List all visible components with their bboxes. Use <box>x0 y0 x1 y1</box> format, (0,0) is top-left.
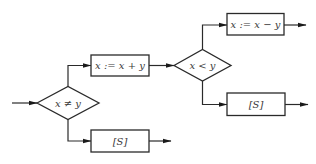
flowchart: x ≠ y x := x + y [S] x < y x := x − y [S… <box>0 0 316 164</box>
assign-sub-label: x := x − y <box>231 19 281 30</box>
s-lower-box: [S] <box>91 130 149 152</box>
s-right-label: [S] <box>249 99 264 110</box>
arrow-to-assign-add <box>68 66 91 87</box>
assign-add-box: x := x + y <box>91 55 149 76</box>
arrow-to-s-lower <box>68 120 91 142</box>
s-lower-label: [S] <box>113 136 128 147</box>
decision-x-lt-y: x < y <box>174 50 231 82</box>
s-right-box: [S] <box>227 93 285 116</box>
decision-x-lt-y-label: x < y <box>189 60 215 71</box>
arrow-to-s-right <box>203 81 228 105</box>
decision-x-neq-y-label: x ≠ y <box>55 98 81 109</box>
arrow-to-assign-sub <box>203 25 228 50</box>
assign-sub-box: x := x − y <box>227 14 284 36</box>
assign-add-label: x := x + y <box>95 60 145 71</box>
decision-x-neq-y: x ≠ y <box>37 87 99 120</box>
